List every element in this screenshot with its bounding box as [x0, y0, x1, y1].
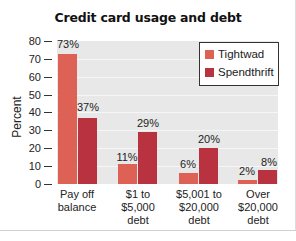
legend-swatch-spendthrift — [205, 68, 214, 77]
value-label: 11% — [112, 151, 142, 163]
value-label: 37% — [73, 101, 103, 113]
y-tick-label: 20 — [17, 142, 41, 154]
x-label-line: balance — [45, 201, 109, 214]
x-label-line: Pay off — [45, 188, 109, 201]
x-label-pay-off: Pay off balance — [45, 188, 109, 214]
x-label-1-5000: $1 to $5,000 debt — [106, 188, 170, 227]
legend: Tightwad Spendthrift — [199, 42, 279, 86]
x-label-line: Over — [226, 188, 290, 201]
y-tick-label: 70 — [17, 53, 41, 65]
y-tick — [44, 41, 52, 42]
x-label-line: $5,000 — [106, 201, 170, 214]
value-label: 73% — [53, 38, 83, 50]
x-label-5001-20000: $5,001 to $20,000 debt — [167, 188, 231, 227]
chart-title: Credit card usage and debt — [0, 10, 296, 25]
bar-tightwad-1-5000 — [118, 164, 137, 184]
x-label-line: $20,000 — [167, 201, 231, 214]
legend-label: Spendthrift — [218, 66, 274, 78]
y-tick-label: 60 — [17, 71, 41, 83]
y-tick — [44, 77, 52, 78]
y-tick-label: 30 — [17, 124, 41, 136]
y-tick — [44, 148, 52, 149]
y-tick — [44, 59, 52, 60]
y-tick — [44, 130, 52, 131]
legend-item-tightwad: Tightwad — [205, 48, 264, 60]
value-label: 8% — [254, 156, 284, 168]
x-label-line: debt — [106, 214, 170, 227]
x-label-line: $1 to — [106, 188, 170, 201]
legend-label: Tightwad — [218, 48, 264, 60]
y-tick-label: 10 — [17, 160, 41, 172]
y-tick — [44, 112, 52, 113]
y-tick-label: 0 — [17, 178, 41, 190]
y-tick-label: 80 — [17, 35, 41, 47]
bar-tightwad-5001-20000 — [179, 173, 198, 184]
legend-swatch-tightwad — [205, 50, 214, 59]
bar-tightwad-over-20000 — [238, 180, 257, 184]
x-label-line: debt — [167, 214, 231, 227]
bar-spendthrift-pay-off — [78, 118, 97, 184]
y-tick-label: 50 — [17, 89, 41, 101]
x-label-over-20000: Over $20,000 debt — [226, 188, 290, 227]
y-tick — [44, 95, 52, 96]
y-tick-label: 40 — [17, 106, 41, 118]
value-label: 20% — [194, 133, 224, 145]
y-tick — [44, 166, 52, 167]
legend-item-spendthrift: Spendthrift — [205, 66, 274, 78]
y-tick — [44, 184, 52, 185]
x-label-line: $20,000 — [226, 201, 290, 214]
gridline — [57, 95, 278, 96]
x-label-line: $5,001 to — [167, 188, 231, 201]
bar-tightwad-pay-off — [58, 54, 77, 184]
x-label-line: debt — [226, 214, 290, 227]
value-label: 6% — [173, 158, 203, 170]
value-label: 29% — [133, 117, 163, 129]
